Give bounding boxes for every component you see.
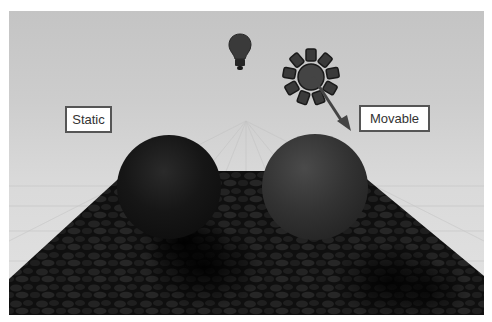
static-sphere[interactable] (117, 135, 221, 239)
movable-label-text: Movable (370, 111, 419, 126)
static-label-text: Static (72, 112, 105, 127)
movable-sphere[interactable] (262, 134, 368, 240)
3d-viewport[interactable]: Static Movable (9, 11, 484, 315)
lightbulb-icon[interactable] (228, 33, 252, 73)
movable-label: Movable (359, 105, 430, 132)
static-label: Static (65, 106, 112, 133)
arrow-icon (307, 73, 357, 135)
